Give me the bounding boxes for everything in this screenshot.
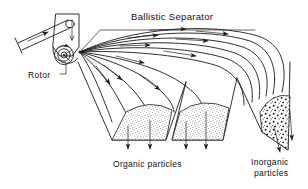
diagram-canvas: Ballistic Separator Rotor Organic partic… (0, 0, 308, 189)
diagram-title: Ballistic Separator (131, 11, 213, 22)
ballistic-separator-figure: Ballistic Separator Rotor Organic partic… (0, 0, 308, 189)
rotor-rotation-arrow (58, 46, 69, 49)
rotor-label: Rotor (28, 70, 50, 80)
inorganic-particles-label-line1: Inorganic (251, 157, 289, 167)
hopper-right-material (260, 95, 290, 150)
rotor-label-leader (60, 64, 66, 74)
hopper-middle (172, 78, 237, 149)
trajectory-group (80, 29, 284, 122)
trajectory-10 (80, 52, 129, 120)
feed-chute (15, 20, 74, 53)
organic-particles-label: Organic particles (113, 159, 182, 169)
trajectory-11 (80, 52, 112, 122)
hopper-left (78, 62, 186, 149)
trajectory-2 (80, 33, 275, 94)
hopper-middle-material (172, 103, 229, 140)
trajectory-3 (80, 38, 267, 96)
hopper-left-material (112, 104, 172, 140)
rotor (55, 46, 74, 65)
inorganic-particles-label-line2: particles (254, 168, 288, 178)
